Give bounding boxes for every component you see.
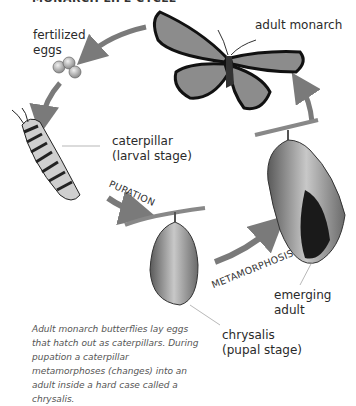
arrow-pupation bbox=[108, 198, 138, 212]
arrow-adult-to-eggs bbox=[88, 27, 146, 55]
chrysalis-label-line1: chrysalis bbox=[222, 328, 302, 343]
caterpillar-label: caterpillar (larval stage) bbox=[112, 134, 192, 164]
emerging-label-line2: adult bbox=[274, 303, 331, 318]
arrow-eggs-to-caterpillar bbox=[42, 83, 60, 120]
caterpillar-illustration bbox=[12, 108, 100, 200]
chrysalis-label: chrysalis (pupal stage) bbox=[222, 328, 302, 358]
caption-text: Adult monarch butterflies lay eggs that … bbox=[32, 322, 202, 406]
eggs-label: fertilized eggs bbox=[33, 28, 86, 58]
arrow-emerging-to-adult bbox=[300, 85, 312, 122]
eggs-label-line2: eggs bbox=[33, 43, 86, 58]
adult-monarch-label: adult monarch bbox=[255, 18, 342, 33]
eggs-illustration bbox=[53, 57, 81, 78]
caterpillar-label-line2: (larval stage) bbox=[112, 149, 192, 164]
chrysalis-illustration bbox=[125, 208, 220, 325]
chrysalis-label-line2: (pupal stage) bbox=[222, 343, 302, 358]
eggs-label-line1: fertilized bbox=[33, 28, 86, 43]
emerging-label-line1: emerging bbox=[274, 288, 331, 303]
arrow-metamorphosis bbox=[215, 228, 272, 262]
caterpillar-label-line1: caterpillar bbox=[112, 134, 192, 149]
emerging-adult-label: emerging adult bbox=[274, 288, 331, 318]
